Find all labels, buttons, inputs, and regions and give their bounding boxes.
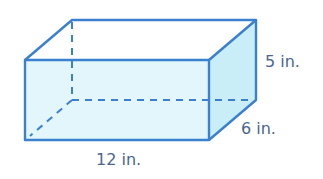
height-label: 5 in. <box>265 52 300 71</box>
prism-diagram: 5 in. 6 in. 12 in. <box>0 0 323 179</box>
depth-label: 6 in. <box>241 119 276 138</box>
length-label: 12 in. <box>96 150 141 169</box>
